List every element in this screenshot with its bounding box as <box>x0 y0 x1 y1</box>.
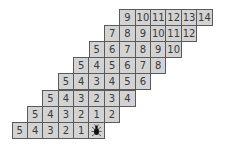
grid-row: 91011121314 <box>119 9 212 26</box>
grid-cell: 10 <box>135 9 151 26</box>
grid-cell: 11 <box>150 9 166 26</box>
grid-cell: 2 <box>104 106 120 123</box>
bug-icon <box>88 122 104 139</box>
grid-cell: 2 <box>88 90 104 107</box>
distance-grid: 9101112131478910111256789105456785434565… <box>0 0 234 160</box>
grid-cell: 13 <box>181 9 197 26</box>
grid-cell: 5 <box>58 73 74 90</box>
grid-cell: 5 <box>104 57 120 74</box>
grid-cell: 4 <box>27 122 43 139</box>
grid-cell: 4 <box>88 57 104 74</box>
grid-cell: 7 <box>104 25 120 42</box>
grid-row: 5678910 <box>89 41 182 58</box>
grid-cell: 11 <box>165 25 181 42</box>
grid-cell: 5 <box>89 41 105 58</box>
grid-cell: 5 <box>73 57 89 74</box>
grid-cell: 8 <box>150 57 166 74</box>
grid-cell: 6 <box>135 73 151 90</box>
grid-cell: 2 <box>58 122 74 139</box>
grid-cell: 3 <box>73 90 89 107</box>
grid-cell: 5 <box>12 122 28 139</box>
grid-cell: 8 <box>135 41 151 58</box>
grid-cell: 10 <box>150 25 166 42</box>
grid-cell: 1 <box>88 106 104 123</box>
grid-row: 543212 <box>27 106 120 123</box>
grid-cell: 2 <box>73 106 89 123</box>
grid-row: 543234 <box>42 90 135 107</box>
grid-cell: 3 <box>42 122 58 139</box>
grid-cell: 1 <box>73 122 89 139</box>
grid-cell: 7 <box>135 57 151 74</box>
grid-cell: 5 <box>119 73 135 90</box>
grid-cell: 3 <box>88 73 104 90</box>
grid-cell: 9 <box>135 25 151 42</box>
grid-cell: 4 <box>119 90 135 107</box>
grid-cell: 4 <box>58 90 74 107</box>
grid-row: 789101112 <box>104 25 197 42</box>
grid-cell: 3 <box>58 106 74 123</box>
grid-cell: 12 <box>181 25 197 42</box>
grid-cell: 14 <box>196 9 212 26</box>
grid-cell: 6 <box>119 57 135 74</box>
grid-cell: 4 <box>42 106 58 123</box>
grid-cell: 12 <box>165 9 181 26</box>
grid-cell: 4 <box>104 73 120 90</box>
grid-cell: 5 <box>42 90 58 107</box>
grid-cell: 10 <box>165 41 181 58</box>
grid-row: 54321 <box>12 122 105 139</box>
grid-row: 543456 <box>58 73 151 90</box>
grid-cell: 4 <box>73 73 89 90</box>
grid-cell: 9 <box>150 41 166 58</box>
grid-cell: 7 <box>119 41 135 58</box>
grid-cell: 3 <box>104 90 120 107</box>
grid-cell: 6 <box>104 41 120 58</box>
grid-cell: 8 <box>119 25 135 42</box>
grid-cell: 5 <box>27 106 43 123</box>
grid-cell: 9 <box>119 9 135 26</box>
grid-row: 545678 <box>73 57 166 74</box>
